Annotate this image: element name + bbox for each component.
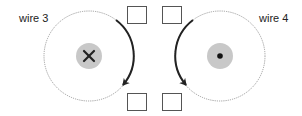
answer-box-bottom-right[interactable] (163, 94, 182, 111)
wire-3-field-arrow (116, 20, 134, 85)
wire-3-label: wire 3 (18, 12, 48, 24)
answer-box-top-right[interactable] (163, 7, 182, 24)
wire-4-field-arrow (175, 20, 193, 85)
magnetic-field-diagram: wire 3 wire 4 (0, 0, 302, 116)
answer-box-top-left[interactable] (128, 7, 147, 24)
wire-4-group: wire 4 (175, 11, 288, 101)
wire-3-group: wire 3 (18, 11, 134, 101)
dot-icon (217, 53, 223, 59)
answer-box-bottom-left[interactable] (128, 94, 147, 111)
wire-4-label: wire 4 (258, 12, 288, 24)
